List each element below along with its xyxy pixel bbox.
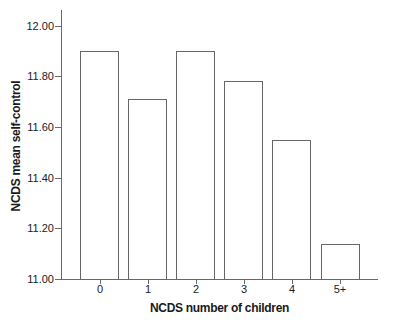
y-tick-label: 11.60: [0, 121, 54, 133]
x-tick-label: 0: [85, 283, 115, 295]
y-tick-label: 11.40: [0, 172, 54, 184]
y-tick-label: 11.20: [0, 222, 54, 234]
y-tick-label: 12.00: [0, 20, 54, 32]
y-tick-mark: [55, 279, 61, 280]
bar: [321, 244, 360, 280]
bar: [80, 51, 119, 280]
y-tick-label: 11.80: [0, 70, 54, 82]
bar: [272, 140, 311, 280]
y-tick-mark: [55, 228, 61, 229]
y-tick-mark: [55, 178, 61, 179]
y-axis-line: [61, 10, 62, 280]
y-tick-mark: [55, 127, 61, 128]
x-tick-label: 2: [181, 283, 211, 295]
y-axis-title: NCDS mean self-control: [9, 81, 23, 212]
y-tick-mark: [55, 76, 61, 77]
bar: [224, 81, 263, 280]
ncds-self-control-bar-chart: NCDS mean self-control NCDS number of ch…: [0, 0, 394, 326]
bar: [128, 99, 167, 280]
x-tick-label: 4: [277, 283, 307, 295]
y-tick-label: 11.00: [0, 273, 54, 285]
bar: [176, 51, 215, 280]
x-tick-label: 3: [229, 283, 259, 295]
x-tick-label: 1: [133, 283, 163, 295]
x-tick-label: 5+: [325, 283, 355, 295]
x-axis-title: NCDS number of children: [61, 301, 378, 315]
y-tick-mark: [55, 26, 61, 27]
